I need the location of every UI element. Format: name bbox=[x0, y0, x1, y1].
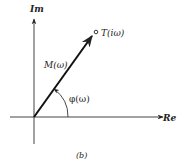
figure-caption: (b) bbox=[76, 151, 87, 160]
complex-plane-diagram: Im Re T(iω) M(ω) φ(ω) (b) bbox=[0, 0, 180, 166]
angle-arc bbox=[54, 89, 68, 117]
endpoint-label: T(iω) bbox=[101, 28, 125, 38]
phasor-vector bbox=[34, 36, 92, 117]
imaginary-axis-label: Im bbox=[29, 4, 44, 14]
magnitude-label: M(ω) bbox=[43, 60, 68, 70]
angle-label: φ(ω) bbox=[69, 94, 90, 104]
real-axis-label: Re bbox=[162, 113, 176, 123]
endpoint-marker bbox=[94, 30, 98, 34]
